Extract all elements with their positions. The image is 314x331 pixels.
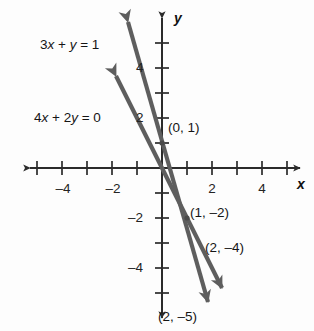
coordinate-plane-figure: 3x + y = 1 4x + 2y = 0 –4 –2 2 4 4 2 –2 … [0,0,314,331]
equation-label-line1: 3x + y = 1 [40,38,99,52]
x-tick-label-2: 2 [208,182,216,196]
point-annotation-2-neg4: (2, –4) [205,241,244,255]
x-tick-label-neg2: –2 [105,182,120,196]
y-tick-label-2: 2 [136,111,144,125]
x-tick-label-neg4: –4 [55,182,70,196]
point-1-neg2 [184,215,189,220]
y-tick-label-neg4: –4 [128,261,143,275]
y-tick-label-4: 4 [136,61,144,75]
point-annotation-1-neg2: (1, –2) [190,206,229,220]
x-axis-label: x [297,177,305,191]
point-annotation-2-neg5: (2, –5) [158,310,197,324]
y-axis-label: y [174,11,182,25]
y-tick-label-neg2: –2 [128,211,143,225]
x-tick-label-4: 4 [258,182,266,196]
equation-label-line2: 4x + 2y = 0 [34,111,101,125]
point-0-1 [159,140,164,145]
point-annotation-0-1: (0, 1) [168,121,200,135]
line-4x-plus-2y-equals-0 [116,76,222,288]
